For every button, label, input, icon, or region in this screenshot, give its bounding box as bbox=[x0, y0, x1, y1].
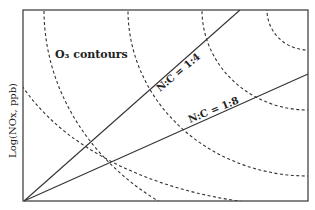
contour-4 bbox=[44, 0, 315, 210]
ozone-contours bbox=[0, 0, 315, 210]
contour-2 bbox=[202, 0, 315, 110]
line-1-label: N:C = 1:4 bbox=[154, 51, 202, 94]
y-axis-label: Log(NOx, ppb) bbox=[7, 83, 18, 158]
contours-label: O₃ contours bbox=[55, 48, 128, 61]
plot-frame bbox=[23, 10, 308, 201]
line-2-label: N:C = 1:8 bbox=[187, 95, 241, 125]
contour-5 bbox=[0, 0, 315, 206]
ozone-isopleth-diagram: O₃ contours N:C = 1:4 N:C = 1:8 Log(NOx,… bbox=[0, 0, 315, 210]
line-nc-1-8 bbox=[24, 74, 308, 201]
